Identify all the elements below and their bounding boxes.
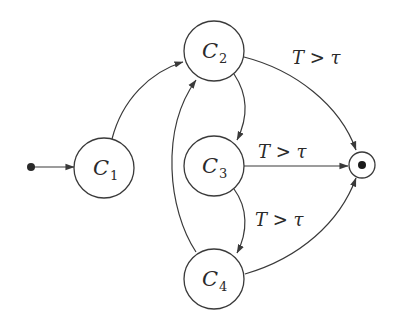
node-c4: C4: [184, 249, 244, 309]
edge-label-c3-to-end: T > τ: [258, 141, 308, 162]
initial-state-dot: [27, 163, 35, 171]
final-state: [349, 152, 375, 178]
state-diagram: C1 C2 C3 C4 T > τ T > τ T > τ: [0, 0, 397, 325]
edge-c3-to-c4: [234, 189, 245, 253]
node-c3: C3: [184, 136, 244, 196]
edge-label-c2-to-end: T > τ: [292, 47, 342, 68]
edge-c2-to-c3: [234, 74, 245, 140]
node-c2: C2: [184, 21, 244, 81]
node-c1: C1: [74, 138, 134, 198]
edge-c1-to-c2: [112, 62, 183, 139]
edge-c2-to-end: [244, 57, 356, 150]
edge-label-c3-to-c4: T > τ: [255, 209, 305, 230]
